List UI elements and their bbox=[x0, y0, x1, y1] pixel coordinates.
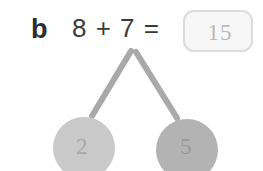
bond-connector-left bbox=[92, 51, 131, 116]
worksheet-canvas: b 8 + 7 = 15 2 5 bbox=[0, 0, 263, 171]
bond-connector-right bbox=[136, 52, 177, 118]
bond-part-value-right: 5 bbox=[180, 134, 193, 160]
number-bond-diagram bbox=[0, 0, 263, 171]
bond-part-value-left: 2 bbox=[76, 134, 89, 160]
